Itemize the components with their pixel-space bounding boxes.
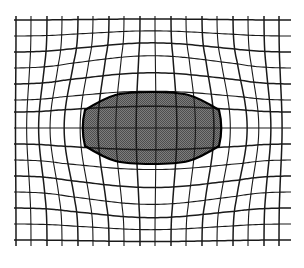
mesh-vertical-line bbox=[15, 16, 16, 246]
figure-root bbox=[0, 0, 304, 268]
deformed-mesh-figure bbox=[0, 0, 304, 268]
